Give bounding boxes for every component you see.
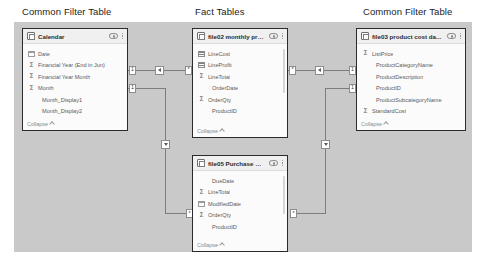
model-view-canvas[interactable]: Common Filter Table Fact Tables Common F…: [0, 0, 486, 266]
collapse-label: Collapse: [27, 121, 48, 127]
table-card-file05[interactable]: file05 Purchase Order DueDate Σ LineTota…: [192, 155, 288, 252]
cardinality-badge-file03-file05-one: 1: [349, 84, 356, 93]
table-card-file03[interactable]: file03 product cost da... Σ ListPrice Pr…: [356, 28, 466, 131]
cardinality-badge-file03-file05-many: *: [290, 209, 297, 218]
collapse-control-file05[interactable]: Collapse: [193, 240, 287, 251]
field-row[interactable]: ProductID: [197, 106, 284, 118]
table-header-calendar[interactable]: Calendar: [23, 29, 127, 44]
table-icon: [197, 159, 205, 167]
chevron-up-icon: [219, 242, 225, 248]
field-row[interactable]: ProductID: [197, 221, 284, 233]
field-label: LineProfit: [208, 62, 232, 68]
table-card-calendar[interactable]: Calendar Date Σ Financial Year (End in J…: [22, 28, 128, 131]
field-label: ProductCategoryName: [376, 62, 433, 68]
field-row[interactable]: Σ LineTotal: [197, 187, 284, 199]
collapse-control-file03[interactable]: Collapse: [357, 119, 465, 130]
table-title-calendar: Calendar: [38, 33, 106, 40]
field-label: ProductID: [212, 224, 237, 230]
field-label: ProductSubcategoryName: [376, 97, 442, 103]
field-row[interactable]: DueDate: [197, 175, 284, 187]
field-row[interactable]: LineCost: [197, 48, 284, 60]
field-label: Month_Display1: [42, 97, 82, 103]
field-label: ProductDescription: [376, 74, 423, 80]
field-row[interactable]: ProductID: [361, 83, 462, 95]
field-row[interactable]: ModifiedDate: [197, 198, 284, 210]
sigma-icon: Σ: [28, 85, 35, 92]
table-fields-file05: DueDate Σ LineTotal ModifiedDate Σ Order…: [193, 171, 287, 240]
sigma-icon: Σ: [28, 62, 35, 69]
relationship-line-cal-file05-seg2[interactable]: [165, 88, 166, 214]
eye-icon[interactable]: [447, 33, 456, 39]
relationship-line-file03-file05-seg3[interactable]: [295, 213, 326, 214]
table-title-file05: file05 Purchase Order: [208, 160, 266, 167]
field-label: ProductID: [376, 85, 401, 91]
collapse-label: Collapse: [197, 128, 218, 134]
field-label: OrderQty: [208, 97, 231, 103]
field-row[interactable]: Σ Financial Year Month: [27, 71, 124, 83]
field-label: LineTotal: [208, 189, 230, 195]
table-title-file03: file03 product cost da...: [372, 33, 444, 40]
field-label: StandardCost: [372, 108, 406, 114]
sigma-icon: Σ: [198, 189, 205, 196]
table-icon: [27, 32, 35, 40]
field-row[interactable]: OrderDate: [197, 83, 284, 95]
section-title-center: Fact Tables: [195, 6, 245, 17]
field-row[interactable]: ProductDescription: [361, 71, 462, 83]
field-label: LineTotal: [208, 74, 230, 80]
collapse-control-calendar[interactable]: Collapse: [23, 119, 127, 130]
field-row[interactable]: Date: [27, 48, 124, 60]
field-spacer: [362, 96, 369, 103]
field-row[interactable]: LineProfit: [197, 60, 284, 72]
field-row[interactable]: Month_Display2: [27, 106, 124, 118]
section-title-left: Common Filter Table: [22, 6, 111, 17]
field-row[interactable]: Month_Display1: [27, 94, 124, 106]
field-row[interactable]: ProductSubcategoryName: [361, 94, 462, 106]
field-row[interactable]: Σ OrderQty: [197, 210, 284, 222]
kebab-menu-icon[interactable]: [281, 32, 284, 41]
cross-filter-arrow-file03-file05: [321, 140, 330, 149]
sigma-icon: Σ: [362, 50, 369, 57]
field-label: Month: [38, 85, 54, 91]
field-label: OrderDate: [212, 85, 238, 91]
table-card-file02[interactable]: file02 monthly produ... LineCost LinePro…: [192, 28, 288, 138]
sigma-icon: Σ: [28, 73, 35, 80]
field-label: OrderQty: [208, 212, 231, 218]
cardinality-badge-file03-file02-many: *: [289, 66, 296, 75]
field-spacer: [198, 223, 205, 230]
sigma-icon: Σ: [198, 73, 205, 80]
collapse-control-file02[interactable]: Collapse: [193, 126, 287, 137]
table-scrollbar[interactable]: [283, 176, 285, 214]
table-fields-file02: LineCost LineProfit Σ LineTotal OrderDat…: [193, 44, 287, 126]
field-row[interactable]: Σ LineTotal: [197, 71, 284, 83]
measure-icon: [198, 62, 205, 69]
calendar-icon: [198, 200, 205, 207]
field-row[interactable]: Σ ListPrice: [361, 48, 462, 60]
kebab-menu-icon[interactable]: [121, 32, 124, 41]
field-row[interactable]: Σ Month: [27, 83, 124, 95]
table-header-file03[interactable]: file03 product cost da...: [357, 29, 465, 44]
table-fields-file03: Σ ListPrice ProductCategoryName ProductD…: [357, 44, 465, 119]
field-row[interactable]: Σ OrderQty: [197, 94, 284, 106]
canvas-margin-bottom: [0, 252, 486, 266]
relationship-line-file03-file05-seg2[interactable]: [325, 88, 326, 214]
field-row[interactable]: Σ StandardCost: [361, 106, 462, 118]
section-title-right: Common Filter Table: [363, 6, 452, 17]
table-header-file02[interactable]: file02 monthly produ...: [193, 29, 287, 44]
sigma-icon: Σ: [362, 108, 369, 115]
kebab-menu-icon[interactable]: [281, 159, 284, 168]
table-header-file05[interactable]: file05 Purchase Order: [193, 156, 287, 171]
field-label: DueDate: [212, 178, 234, 184]
field-label: LineCost: [208, 51, 230, 57]
cardinality-badge-cal-file02-many: *: [185, 66, 192, 75]
eye-icon[interactable]: [109, 33, 118, 39]
cross-filter-arrow-file03-file02: [315, 66, 324, 75]
cross-filter-arrow-cal-file02: [155, 66, 164, 75]
collapse-label: Collapse: [197, 242, 218, 248]
field-row[interactable]: ProductCategoryName: [361, 60, 462, 72]
kebab-menu-icon[interactable]: [459, 32, 462, 41]
table-scrollbar[interactable]: [283, 49, 285, 93]
eye-icon[interactable]: [269, 33, 278, 39]
field-row[interactable]: Σ Financial Year (End in Jun): [27, 60, 124, 72]
eye-icon[interactable]: [269, 160, 278, 166]
cardinality-badge-file03-file02-one: 1: [349, 66, 356, 75]
